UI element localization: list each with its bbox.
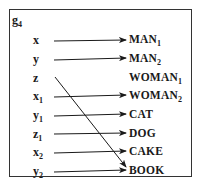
arrow-x-man1 bbox=[54, 40, 126, 41]
arrow-y1-cat bbox=[54, 114, 126, 116]
arrow-y2-book bbox=[54, 170, 126, 172]
arrow-z-book bbox=[55, 77, 126, 167]
arrow-z1-dog bbox=[54, 133, 126, 134]
arrow-x1-woman2 bbox=[54, 95, 126, 97]
arrow-y-man2 bbox=[54, 58, 126, 60]
mapping-arrows bbox=[0, 0, 204, 187]
